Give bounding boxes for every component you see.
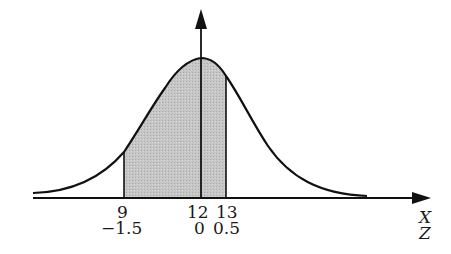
vertical-arrowhead-icon: [195, 9, 207, 29]
tick-z-0-5: 0.5: [213, 220, 240, 237]
tick-z-neg1-5: −1.5: [101, 220, 142, 237]
normal-distribution-diagram: 9 −1.5 12 0 13 0.5 X Z: [0, 0, 451, 254]
axis-label-z: Z: [419, 225, 431, 242]
horizontal-arrowhead-icon: [412, 192, 431, 204]
tick-z-0: 0: [194, 220, 205, 237]
